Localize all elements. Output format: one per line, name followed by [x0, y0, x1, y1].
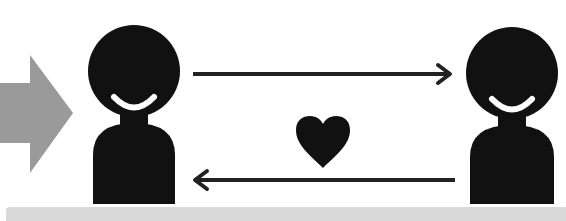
block-arrow-right-icon: [0, 55, 73, 173]
diagram-canvas: [0, 0, 566, 221]
smiling-person-left-icon: [88, 25, 180, 204]
arrow-left-icon: [195, 171, 455, 189]
bottom-bar: [6, 207, 566, 221]
smiling-person-right-icon: [466, 27, 558, 204]
heart-icon: [296, 116, 350, 168]
arrow-right-icon: [193, 65, 450, 83]
